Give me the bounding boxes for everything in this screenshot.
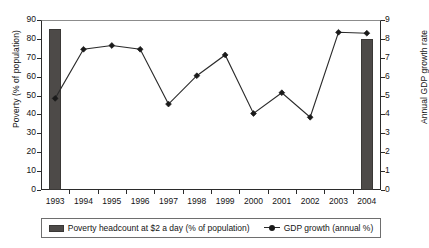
y-axis-right-tick-mark: [381, 114, 385, 115]
y-axis-right-tick-label: 7: [385, 53, 403, 62]
x-axis-tick-mark: [324, 190, 325, 194]
y-axis-left-tick-mark: [37, 171, 41, 172]
y-axis-left-tick-mark: [37, 96, 41, 97]
line-marker-swatch-icon: [264, 224, 280, 232]
y-axis-right-tick-mark: [381, 96, 385, 97]
y-axis-left-tick-mark: [37, 77, 41, 78]
y-axis-left-tick-label: 70: [12, 53, 36, 62]
gdp-marker-1994: [81, 46, 87, 52]
y-axis-left-ticks: 9080706050403020100: [10, 20, 36, 190]
x-axis-tick-mark: [98, 190, 99, 194]
x-axis-tick-mark: [69, 190, 70, 194]
x-axis-tick-mark: [211, 190, 212, 194]
x-axis-tick-mark: [154, 190, 155, 194]
y-axis-right-tick-mark: [381, 171, 385, 172]
y-axis-left-tick-mark: [37, 190, 41, 191]
y-axis-right-tick-label: 8: [385, 34, 403, 43]
y-axis-left-tick-label: 30: [12, 128, 36, 137]
gdp-growth-line: [55, 32, 367, 117]
gdp-marker-1996: [137, 46, 143, 52]
y-axis-right-tick-label: 2: [385, 147, 403, 156]
y-axis-right-tick-label: 4: [385, 109, 403, 118]
gdp-marker-1993: [52, 95, 58, 101]
y-axis-right-tick-label: 3: [385, 128, 403, 137]
y-axis-left-tick-label: 0: [12, 185, 36, 194]
y-axis-left-tick-mark: [37, 152, 41, 153]
y-axis-right-tick-mark: [381, 152, 385, 153]
y-axis-right-ticks: 9876543210: [385, 20, 405, 190]
y-axis-right-title: Annual GDP growth rate: [419, 0, 429, 157]
y-axis-left-tick-mark: [37, 20, 41, 21]
y-axis-left-tick-mark: [37, 58, 41, 59]
y-axis-right-tick-label: 9: [385, 15, 403, 24]
y-axis-left-tick-label: 60: [12, 72, 36, 81]
x-axis-tick-mark: [183, 190, 184, 194]
legend-item-gdp: GDP growth (annual %): [264, 223, 374, 233]
y-axis-left-tick-label: 80: [12, 34, 36, 43]
y-axis-left-tick-mark: [37, 133, 41, 134]
y-axis-right-tick-mark: [381, 39, 385, 40]
y-axis-left-tick-label: 20: [12, 147, 36, 156]
y-axis-left-tick-label: 50: [12, 91, 36, 100]
legend-label-poverty: Poverty headcount at $2 a day (% of popu…: [68, 223, 250, 233]
gdp-growth-markers: [52, 29, 369, 120]
x-axis-tick-mark: [268, 190, 269, 194]
y-axis-right-tick-mark: [381, 58, 385, 59]
y-axis-right-tick-label: 0: [385, 185, 403, 194]
y-axis-left-tick-label: 10: [12, 166, 36, 175]
y-axis-right-tick-mark: [381, 20, 385, 21]
y-axis-right-tick-mark: [381, 77, 385, 78]
y-axis-left-tick-mark: [37, 39, 41, 40]
y-axis-left-tick-mark: [37, 114, 41, 115]
y-axis-right-tick-mark: [381, 190, 385, 191]
gdp-marker-2003: [336, 29, 342, 35]
gdp-marker-2004: [364, 30, 370, 36]
bar-swatch-icon: [49, 225, 64, 232]
chart-legend: Poverty headcount at $2 a day (% of popu…: [41, 218, 381, 238]
legend-item-poverty: Poverty headcount at $2 a day (% of popu…: [49, 223, 250, 233]
y-axis-left-tick-label: 40: [12, 109, 36, 118]
y-axis-right-tick-label: 5: [385, 91, 403, 100]
y-axis-right-tick-label: 1: [385, 166, 403, 175]
legend-label-gdp: GDP growth (annual %): [284, 223, 374, 233]
x-axis-tick-label: 2004: [347, 196, 387, 206]
line-series-layer: [41, 20, 381, 190]
y-axis-left-tick-label: 90: [12, 15, 36, 24]
y-axis-right-tick-label: 6: [385, 72, 403, 81]
y-axis-right-tick-mark: [381, 133, 385, 134]
x-axis-tick-mark: [239, 190, 240, 194]
x-axis-tick-mark: [296, 190, 297, 194]
gdp-marker-1995: [109, 43, 115, 49]
x-axis-tick-mark: [353, 190, 354, 194]
x-axis-tick-mark: [126, 190, 127, 194]
